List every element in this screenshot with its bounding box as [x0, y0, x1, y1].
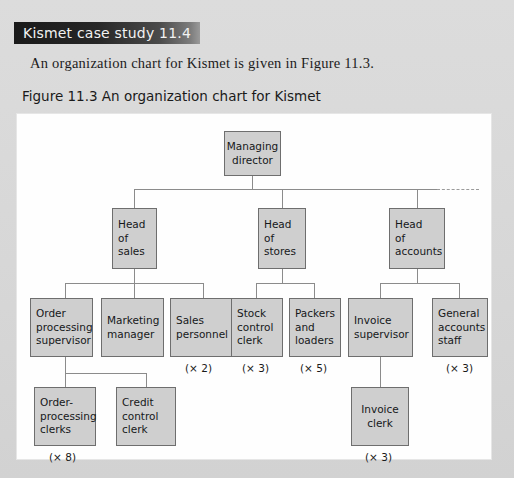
node-label-line: Stock	[237, 307, 266, 320]
edge-md-stem	[252, 176, 253, 189]
edge-ops-bus	[65, 373, 146, 374]
intro-paragraph: An organization chart for Kismet is give…	[30, 55, 374, 72]
multiplier-sales-personnel: (× 2)	[185, 362, 212, 374]
edge-drop-order-processing-supervisor	[65, 283, 66, 298]
edge-drop-head-of-accounts	[417, 189, 418, 208]
edge-drop-stock-control-clerk	[256, 283, 257, 298]
multiplier-invoice-clerk: (× 3)	[365, 451, 392, 463]
figure-panel: Managing director Head of sales Head of …	[17, 114, 491, 459]
edge-md-dashed-continuation	[437, 189, 479, 190]
edge-drop-head-of-stores	[282, 189, 283, 208]
edge-drop-packers-and-loaders	[314, 283, 315, 298]
edge-drop-head-of-sales	[134, 189, 135, 208]
node-marketing-manager[interactable]: Marketing manager	[101, 298, 164, 357]
node-packers-and-loaders[interactable]: Packers and loaders	[289, 298, 341, 357]
page-background: Kismet case study 11.4 An organization c…	[0, 0, 514, 478]
node-label-line: loaders	[295, 334, 334, 347]
node-label-line: Marketing	[107, 314, 159, 327]
node-label-line: and	[295, 321, 315, 334]
node-label-line: Head	[395, 218, 422, 231]
node-label-line: Packers	[295, 307, 335, 320]
edge-drop-sales-personnel	[203, 283, 204, 298]
node-head-of-sales[interactable]: Head of sales	[112, 208, 157, 269]
node-label-line: staff	[438, 334, 461, 347]
node-label-line: clerks	[40, 423, 71, 436]
node-label-line: Head	[264, 218, 291, 231]
edge-invoice-supervisor-stem	[380, 357, 381, 387]
node-head-of-stores[interactable]: Head of stores	[258, 208, 306, 269]
node-label-line: Sales	[176, 314, 204, 327]
node-label-line: manager	[107, 328, 154, 341]
edge-ops-stem	[65, 357, 66, 373]
node-label-line: Invoice	[354, 314, 392, 327]
node-label-line: Managing	[227, 140, 279, 153]
multiplier-stock-control-clerk: (× 3)	[242, 362, 269, 374]
node-label-line: clerk	[237, 334, 263, 347]
node-label-line: processing	[36, 321, 93, 334]
case-study-banner: Kismet case study 11.4	[14, 22, 200, 44]
edge-stores-bus	[256, 283, 314, 284]
case-study-title: Kismet case study 11.4	[14, 25, 191, 41]
node-invoice-clerk[interactable]: Invoice clerk	[351, 387, 409, 446]
edge-accounts-bus	[380, 283, 459, 284]
node-managing-director[interactable]: Managing director	[224, 131, 281, 176]
node-order-processing-supervisor[interactable]: Order processing supervisor	[30, 298, 93, 357]
edge-stores-stem	[282, 269, 283, 283]
node-label-line: clerk	[367, 417, 393, 430]
node-label-line: Head	[118, 218, 145, 231]
org-chart: Managing director Head of sales Head of …	[17, 114, 491, 459]
node-head-of-accounts[interactable]: Head of accounts	[389, 208, 445, 269]
node-label-line: personnel	[176, 328, 228, 341]
edge-drop-marketing-manager	[134, 283, 135, 298]
multiplier-packers-and-loaders: (× 5)	[300, 362, 327, 374]
node-label-line: of	[264, 232, 274, 245]
node-label-line: accounts	[438, 321, 485, 334]
edge-md-bus	[134, 189, 437, 190]
edge-drop-order-processing-clerks	[65, 373, 66, 387]
node-label-line: supervisor	[354, 328, 409, 341]
node-label-line: Order	[36, 307, 66, 320]
node-label-line: Invoice	[361, 403, 399, 416]
node-label-line: control	[237, 321, 273, 334]
node-general-accounts-staff[interactable]: General accounts staff	[432, 298, 488, 357]
node-label-line: control	[122, 410, 158, 423]
multiplier-general-accounts-staff: (× 3)	[446, 362, 473, 374]
node-label-line: Order-	[40, 396, 73, 409]
node-label-line: General	[438, 307, 479, 320]
edge-drop-invoice-supervisor	[380, 283, 381, 298]
node-invoice-supervisor[interactable]: Invoice supervisor	[348, 298, 413, 357]
node-label-line: supervisor	[36, 334, 91, 347]
node-label-line: Credit	[122, 396, 154, 409]
node-label-line: director	[232, 154, 273, 167]
edge-sales-stem	[134, 269, 135, 283]
node-sales-personnel[interactable]: Sales personnel	[170, 298, 233, 357]
edge-accounts-stem	[417, 269, 418, 283]
node-label-line: processing	[40, 410, 97, 423]
node-label-line: of	[118, 232, 128, 245]
node-stock-control-clerk[interactable]: Stock control clerk	[231, 298, 283, 357]
edge-drop-general-accounts-staff	[459, 283, 460, 298]
multiplier-order-processing-clerks: (× 8)	[49, 451, 76, 463]
node-label-line: clerk	[122, 423, 148, 436]
node-label-line: stores	[264, 245, 296, 258]
node-order-processing-clerks[interactable]: Order- processing clerks	[34, 387, 96, 446]
edge-drop-credit-control-clerk	[146, 373, 147, 387]
node-label-line: accounts	[395, 245, 442, 258]
node-label-line: of	[395, 232, 405, 245]
node-label-line: sales	[118, 245, 145, 258]
figure-caption: Figure 11.3 An organization chart for Ki…	[22, 88, 321, 104]
node-credit-control-clerk[interactable]: Credit control clerk	[116, 387, 176, 446]
